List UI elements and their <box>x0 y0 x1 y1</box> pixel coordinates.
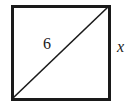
figure-canvas <box>0 0 132 107</box>
diagonal-length-label: 6 <box>43 36 51 52</box>
side-length-label: x <box>117 39 124 55</box>
geometry-figure: 6 x <box>0 0 132 107</box>
